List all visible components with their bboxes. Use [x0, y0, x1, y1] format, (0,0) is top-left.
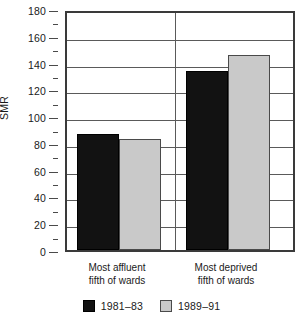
y-tick-minor [53, 185, 58, 186]
group-divider [175, 13, 176, 250]
bar [119, 139, 161, 250]
x-axis-label: Most deprivedfifth of wards [166, 262, 286, 287]
plot-area [65, 11, 295, 252]
grid-line [67, 40, 293, 41]
legend-swatch-icon [83, 300, 95, 312]
y-tick-minor [53, 132, 58, 133]
y-tick-major [49, 198, 58, 199]
x-axis-label: Most affluentfifth of wards [57, 262, 177, 287]
y-tick-major [49, 172, 58, 173]
y-tick-major [49, 65, 58, 66]
legend-swatch-icon [160, 300, 172, 312]
legend: 1981–83 1989–91 [0, 300, 303, 312]
y-tick-major [49, 11, 58, 12]
y-tick-major [49, 91, 58, 92]
y-tick-label: 100 [28, 112, 46, 124]
y-tick-minor [53, 212, 58, 213]
y-tick-major [49, 38, 58, 39]
y-tick-minor [53, 105, 58, 106]
legend-label: 1989–91 [178, 300, 220, 312]
legend-label: 1981–83 [101, 300, 143, 312]
bar [228, 55, 270, 250]
y-tick-major [49, 118, 58, 119]
y-tick-label: 20 [34, 219, 46, 231]
bar-chart: SMR 020406080100120140160180 Most afflue… [0, 0, 303, 324]
y-tick-minor [53, 239, 58, 240]
y-tick-label: 40 [34, 192, 46, 204]
y-tick-label: 0 [40, 246, 46, 258]
y-tick-major [49, 252, 58, 253]
y-tick-label: 140 [28, 59, 46, 71]
x-axis-label-line: fifth of wards [57, 275, 177, 288]
y-tick-major [49, 145, 58, 146]
y-tick-minor [53, 51, 58, 52]
y-tick-minor [53, 78, 58, 79]
y-tick-major [49, 225, 58, 226]
bar [77, 134, 119, 250]
y-tick-label: 180 [28, 5, 46, 17]
x-axis-label-line: fifth of wards [166, 275, 286, 288]
y-axis-title: SMR [0, 96, 10, 120]
legend-item-1981-83: 1981–83 [83, 300, 143, 312]
y-axis: SMR 020406080100120140160180 [0, 0, 60, 263]
y-tick-minor [53, 24, 58, 25]
bar [186, 71, 228, 250]
y-tick-label: 160 [28, 32, 46, 44]
y-tick-minor [53, 158, 58, 159]
x-axis-label-line: Most deprived [166, 262, 286, 275]
y-tick-label: 120 [28, 85, 46, 97]
y-tick-label: 80 [34, 139, 46, 151]
legend-item-1989-91: 1989–91 [160, 300, 220, 312]
x-axis-label-line: Most affluent [57, 262, 177, 275]
y-tick-label: 60 [34, 166, 46, 178]
